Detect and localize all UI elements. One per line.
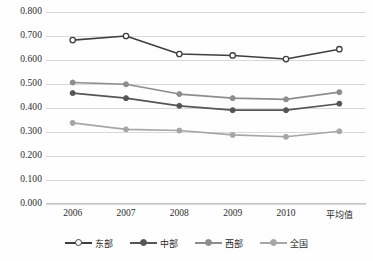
data-point bbox=[123, 33, 128, 38]
x-tick-label-2008: 2008 bbox=[170, 208, 189, 218]
series-line bbox=[73, 123, 340, 137]
y-tick-label: 0.800 bbox=[0, 6, 42, 16]
y-axis-labels: 0.8000.7000.6000.5000.4000.3000.2000.100… bbox=[0, 0, 42, 261]
y-tick-label: 0.200 bbox=[0, 150, 42, 160]
y-tick-label: 0.400 bbox=[0, 102, 42, 112]
x-tick-label-2006: 2006 bbox=[63, 208, 82, 218]
y-tick-label: 0.300 bbox=[0, 126, 42, 136]
y-tick-label: 0.100 bbox=[0, 174, 42, 184]
x-tick-label-2009: 2009 bbox=[223, 208, 242, 218]
data-point bbox=[70, 80, 75, 85]
legend-marker-icon bbox=[130, 238, 157, 248]
legend-label: 西部 bbox=[225, 237, 243, 250]
legend-label: 全国 bbox=[290, 237, 308, 250]
series-中部 bbox=[70, 91, 342, 113]
legend-item-中部[interactable]: 中部 bbox=[130, 237, 178, 250]
data-point bbox=[337, 129, 342, 134]
chart-legend: 东部中部西部全国 bbox=[0, 233, 373, 253]
legend-item-全国[interactable]: 全国 bbox=[260, 237, 308, 250]
line-chart: 0.8000.7000.6000.5000.4000.3000.2000.100… bbox=[0, 0, 373, 261]
series-全国 bbox=[70, 120, 342, 139]
data-point bbox=[177, 128, 182, 133]
y-tick-label: 0.700 bbox=[0, 30, 42, 40]
legend-label: 中部 bbox=[160, 237, 178, 250]
data-point bbox=[124, 82, 129, 87]
x-tick-label-2010: 2010 bbox=[277, 208, 296, 218]
data-point bbox=[70, 91, 75, 96]
legend-marker-icon bbox=[195, 238, 222, 248]
legend-item-东部[interactable]: 东部 bbox=[65, 237, 113, 250]
data-point bbox=[177, 92, 182, 97]
data-point bbox=[177, 103, 182, 108]
y-tick-label: 0.500 bbox=[0, 78, 42, 88]
data-point bbox=[124, 96, 129, 101]
gridline-0.000 bbox=[46, 204, 366, 205]
data-point bbox=[230, 53, 235, 58]
data-point bbox=[284, 97, 289, 102]
y-tick-label: 0.000 bbox=[0, 198, 42, 208]
legend-marker-icon bbox=[65, 238, 92, 248]
data-point bbox=[337, 90, 342, 95]
data-point bbox=[284, 108, 289, 113]
data-point bbox=[337, 47, 342, 52]
data-point bbox=[124, 127, 129, 132]
y-tick-label: 0.600 bbox=[0, 54, 42, 64]
data-point bbox=[177, 51, 182, 56]
legend-marker-icon bbox=[260, 238, 287, 248]
series-layer bbox=[46, 12, 366, 204]
series-西部 bbox=[70, 80, 342, 102]
x-axis-labels: 20062007200820092010平均值 bbox=[46, 208, 366, 226]
data-point bbox=[70, 120, 75, 125]
legend-label: 东部 bbox=[95, 237, 113, 250]
x-tick-label-2007: 2007 bbox=[117, 208, 136, 218]
data-point bbox=[230, 132, 235, 137]
series-东部 bbox=[70, 33, 342, 61]
data-point bbox=[70, 37, 75, 42]
x-axis-line bbox=[46, 203, 366, 204]
series-line bbox=[73, 36, 340, 59]
data-point bbox=[283, 56, 288, 61]
data-point bbox=[230, 96, 235, 101]
data-point bbox=[337, 101, 342, 106]
data-point bbox=[284, 134, 289, 139]
legend-item-西部[interactable]: 西部 bbox=[195, 237, 243, 250]
data-point bbox=[230, 108, 235, 113]
plot-area bbox=[46, 12, 366, 204]
x-tick-label-平均值: 平均值 bbox=[326, 208, 353, 221]
